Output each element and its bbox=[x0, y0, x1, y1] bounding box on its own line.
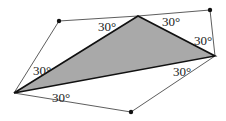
angle-label-top-right: 30° bbox=[162, 14, 180, 29]
angle-label-right-upper: 30° bbox=[194, 33, 212, 48]
angle-label-top-left: 30° bbox=[98, 19, 116, 34]
geometry-diagram: 30° 30° 30° 30° 30° 30° bbox=[0, 0, 226, 121]
angle-label-right-lower: 30° bbox=[173, 64, 191, 79]
edge-F-A bbox=[14, 93, 131, 112]
vertex-dot-bottom bbox=[129, 110, 133, 114]
angle-label-left-lower: 30° bbox=[52, 90, 70, 105]
vertex-dot-top-right bbox=[208, 8, 212, 12]
vertex-dot-top-left bbox=[57, 19, 61, 23]
angle-label-left-upper: 30° bbox=[33, 63, 51, 78]
